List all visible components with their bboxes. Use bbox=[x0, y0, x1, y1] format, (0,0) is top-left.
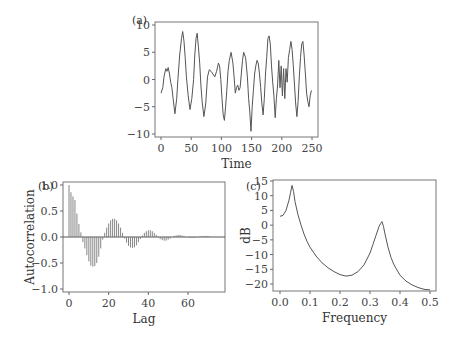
x-axis-label: Frequency bbox=[322, 311, 387, 325]
x-axis-label: Time bbox=[221, 157, 251, 171]
y-tick-label: 0.5 bbox=[41, 205, 59, 218]
chart-panel-b bbox=[60, 182, 225, 295]
panel-label: (a) bbox=[132, 14, 147, 27]
x-tick-label: 150 bbox=[241, 142, 262, 155]
y-tick-label: 5 bbox=[143, 46, 150, 59]
data-line bbox=[161, 32, 311, 132]
y-tick-label: 0 bbox=[261, 219, 268, 232]
y-tick-label: −5 bbox=[252, 234, 268, 247]
x-tick-label: 0.1 bbox=[301, 296, 319, 309]
x-tick-label: 0 bbox=[158, 142, 165, 155]
x-tick-label: 60 bbox=[181, 297, 195, 310]
plot-frame bbox=[155, 22, 318, 137]
figure: 1050−5−10050100150200250Time(a)1.00.50.0… bbox=[0, 0, 461, 337]
y-tick-label: −10 bbox=[245, 249, 268, 262]
x-tick-label: 200 bbox=[271, 142, 292, 155]
plot-frame bbox=[273, 180, 436, 291]
y-tick-label: −10 bbox=[127, 128, 150, 141]
x-tick-label: 40 bbox=[141, 297, 155, 310]
x-tick-label: 0 bbox=[66, 297, 73, 310]
data-line bbox=[280, 185, 430, 290]
x-tick-label: 0.5 bbox=[421, 296, 439, 309]
y-tick-label: −5 bbox=[134, 101, 150, 114]
x-tick-label: 0.3 bbox=[361, 296, 379, 309]
y-tick-label: 0 bbox=[143, 74, 150, 87]
y-axis-label: Autocorrelation bbox=[23, 189, 37, 286]
panel-label: (c) bbox=[246, 180, 261, 193]
x-tick-label: 20 bbox=[102, 297, 116, 310]
x-tick-label: 0.0 bbox=[271, 296, 289, 309]
y-axis-label: dB bbox=[239, 227, 253, 244]
panel-label: (b) bbox=[38, 180, 54, 193]
y-tick-label: −15 bbox=[245, 263, 268, 276]
x-tick-label: 50 bbox=[184, 142, 198, 155]
x-tick-label: 100 bbox=[211, 142, 232, 155]
x-tick-label: 250 bbox=[302, 142, 323, 155]
y-tick-label: 5 bbox=[261, 204, 268, 217]
y-tick-label: 0.0 bbox=[41, 231, 59, 244]
x-tick-label: 0.4 bbox=[391, 296, 409, 309]
y-tick-label: −20 bbox=[245, 278, 268, 291]
chart-panel-c bbox=[270, 180, 436, 294]
chart-panel-a bbox=[152, 22, 318, 140]
x-tick-label: 0.2 bbox=[331, 296, 349, 309]
x-axis-label: Lag bbox=[133, 312, 156, 326]
